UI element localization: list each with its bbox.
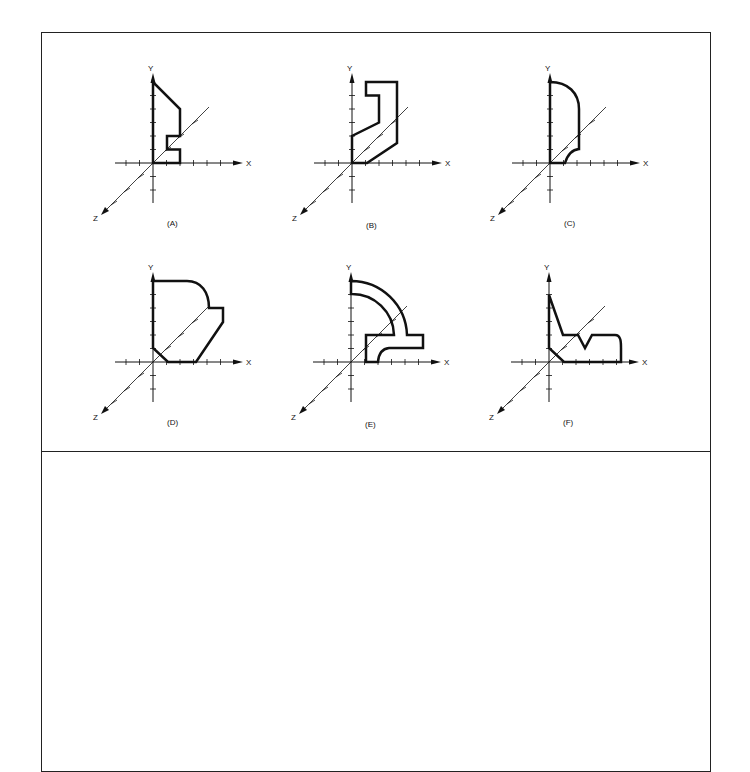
- panel-caption: (B): [366, 221, 377, 230]
- panel-caption: (E): [365, 420, 376, 429]
- y-axis-label: Y: [148, 263, 154, 272]
- x-axis-label: X: [642, 358, 648, 367]
- x-axis-label: X: [445, 159, 451, 168]
- z-axis-label: Z: [489, 413, 494, 422]
- z-axis-label: Z: [93, 214, 98, 223]
- x-axis-label: X: [246, 358, 252, 367]
- y-axis-label: Y: [346, 263, 352, 272]
- panel-d: Y X Z (D): [93, 263, 252, 427]
- panel-caption: (C): [564, 219, 575, 228]
- panel-f: Y X Z (F): [489, 263, 648, 427]
- z-axis-label: Z: [93, 413, 98, 422]
- z-axis-label: Z: [490, 214, 495, 223]
- panel-caption: (D): [167, 418, 178, 427]
- y-axis-label: Y: [544, 263, 550, 272]
- y-axis-label: Y: [545, 64, 551, 73]
- panel-e: Y X Z (E): [291, 263, 450, 429]
- z-axis-label: Z: [291, 413, 296, 422]
- panel-b: Y X Z (B): [292, 64, 451, 230]
- z-axis-label: Z: [292, 214, 297, 223]
- x-axis-label: X: [643, 159, 649, 168]
- x-axis-label: X: [246, 159, 252, 168]
- x-axis-label: X: [444, 358, 450, 367]
- panel-caption: (F): [563, 418, 574, 427]
- y-axis-label: Y: [148, 64, 154, 73]
- y-axis-label: Y: [347, 64, 353, 73]
- panel-caption: (A): [167, 219, 178, 228]
- panel-a: Y X Z (A): [93, 64, 252, 228]
- panel-c: Y X Z (C): [490, 64, 649, 228]
